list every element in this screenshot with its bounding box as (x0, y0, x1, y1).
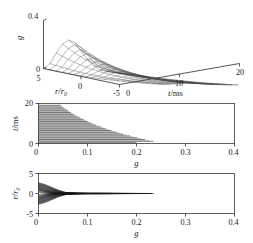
panel-3d-surface: 0.4 0 g 5 0 -5 r/r0 0 10 20 t/ms (0, 0, 253, 96)
panel-3d-svg: 0.4 0 g 5 0 -5 r/r0 0 10 20 t/ms (0, 0, 253, 96)
y-tick-label-0: 0 (126, 89, 130, 96)
mesh-cols-constant-r (44, 40, 238, 85)
z-axis-label: g (14, 35, 24, 40)
z-tick-label-max: 0.4 (28, 12, 38, 21)
mid-xtick-04: 0.4 (228, 148, 238, 157)
mid-xtick-03: 0.3 (180, 148, 190, 157)
mid-y-axis-label: t/ms (10, 115, 20, 130)
bot-y-axis-label: r/r0 (10, 187, 21, 199)
bot-xtick-04: 0.4 (228, 218, 238, 227)
bot-xtick-01: 0.1 (82, 218, 92, 227)
panel-mid-svg: 0 0.1 0.2 0.3 0.4 g 0 20 t/ms (0, 96, 253, 168)
panel-bottom-contours: 0 0.1 0.2 0.3 0.4 g -5 0 5 r/r0 (0, 166, 253, 243)
mid-xtick-0: 0 (34, 148, 38, 157)
hline-group (39, 105, 154, 142)
panel-bot-svg: 0 0.1 0.2 0.3 0.4 g -5 0 5 r/r0 (0, 166, 253, 243)
bot-x-axis-label: g (134, 228, 139, 238)
bot-xtick-03: 0.3 (180, 218, 190, 227)
y-tick-label-20: 20 (236, 68, 244, 77)
mid-xtick-02: 0.2 (131, 148, 141, 157)
bot-xtick-0: 0 (34, 218, 38, 227)
labels-bot: 0 0.1 0.2 0.3 0.4 g -5 0 5 r/r0 (10, 170, 239, 239)
ticks-bot (36, 174, 235, 217)
x-tick-label-0: 0 (78, 82, 82, 91)
mid-xtick-01: 0.1 (82, 148, 92, 157)
mid-ytick-0: 0 (29, 140, 33, 149)
x-axis-label: r/r0 (55, 86, 67, 96)
panel-middle-hlines: 0 0.1 0.2 0.3 0.4 g 0 20 t/ms (0, 96, 253, 168)
x-tick-label-5: 5 (37, 74, 41, 83)
x-tick-label-m5: -5 (113, 89, 120, 96)
bot-ytick-0: 0 (29, 190, 33, 199)
mid-ytick-20: 20 (25, 99, 33, 108)
bot-ytick-m5: -5 (26, 210, 33, 219)
bot-ytick-5: 5 (29, 170, 33, 179)
axes-3d (44, 19, 240, 88)
bot-xtick-02: 0.2 (131, 218, 141, 227)
y-axis-label: t/ms (168, 88, 183, 97)
z-tick-top (44, 19, 47, 21)
figure-three-panel: 0.4 0 g 5 0 -5 r/r0 0 10 20 t/ms (0, 0, 253, 243)
z-tick-label-min: 0 (36, 65, 40, 74)
